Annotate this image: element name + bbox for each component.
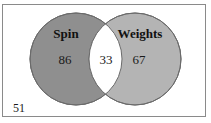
spin-only-count: 86 [59,52,72,68]
set-label-spin: Spin [53,26,78,42]
set-label-weights: Weights [118,26,163,42]
outside-count: 51 [13,101,25,116]
intersection-count: 33 [100,52,113,68]
weights-only-count: 67 [133,52,146,68]
